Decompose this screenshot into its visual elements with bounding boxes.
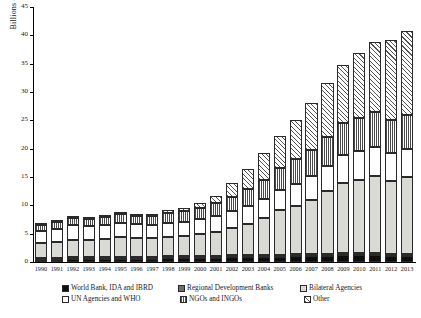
bar-segment <box>258 153 270 179</box>
x-tick-label: 2005 <box>272 265 288 272</box>
y-tick-label: 20 <box>0 145 28 152</box>
bar-column[interactable] <box>162 210 174 262</box>
y-tick-label: 25 <box>0 116 28 123</box>
bar-segment <box>369 112 381 147</box>
bar-segment <box>401 177 413 254</box>
bar-column[interactable] <box>353 53 365 262</box>
bar-column[interactable] <box>99 215 111 262</box>
bar-segment <box>130 259 142 262</box>
bar-segment <box>51 260 63 262</box>
x-tick-label: 2002 <box>224 265 240 272</box>
bar-segment <box>274 210 286 255</box>
legend-item-un-who[interactable]: UN Agencies and WHO <box>62 294 180 305</box>
bar-segment <box>242 224 254 256</box>
y-tick-label: 10 <box>0 201 28 208</box>
legend-item-world-bank[interactable]: World Bank, IDA and IBRD <box>62 283 178 294</box>
bar-segment <box>51 222 63 229</box>
bar-column[interactable] <box>51 220 63 262</box>
bar-segment <box>162 237 174 256</box>
bar-column[interactable] <box>274 136 286 262</box>
bar-column[interactable] <box>242 169 254 262</box>
x-tick-label: 2001 <box>208 265 224 272</box>
bar-segment <box>258 257 270 262</box>
bar-column[interactable] <box>35 223 47 262</box>
legend-label: World Bank, IDA and IBRD <box>71 283 153 294</box>
bar-segment <box>51 229 63 242</box>
bar-column[interactable] <box>83 217 95 262</box>
bar-segment <box>321 191 333 253</box>
bar-segment <box>353 180 365 253</box>
bar-segment <box>226 257 238 262</box>
bar-segment <box>99 259 111 262</box>
bar-column[interactable] <box>385 40 397 262</box>
bar-segment <box>210 203 222 216</box>
bar-segment <box>290 184 302 206</box>
bar-segment <box>242 257 254 262</box>
bar-column[interactable] <box>369 42 381 262</box>
legend-item-bilateral[interactable]: Bilateral Agencies <box>300 283 362 294</box>
bar-segment <box>146 225 158 239</box>
bar-segment <box>130 216 142 225</box>
legend-item-other[interactable]: Other <box>304 294 329 305</box>
bar-column[interactable] <box>178 208 190 262</box>
bar-column[interactable] <box>258 153 270 262</box>
bar-segment <box>401 256 413 262</box>
bar-segment <box>67 225 79 239</box>
solid-gray-swatch-icon <box>178 285 185 292</box>
bar-segment <box>194 219 206 234</box>
y-tick-label: 15 <box>0 173 28 180</box>
chart-legend: World Bank, IDA and IBRD Regional Develo… <box>62 283 362 305</box>
bar-column[interactable] <box>67 216 79 262</box>
x-tick-label: 1995 <box>113 265 129 272</box>
white-swatch-icon <box>62 296 69 303</box>
x-tick-label: 1996 <box>129 265 145 272</box>
bar-column[interactable] <box>146 214 158 262</box>
bar-segment <box>162 213 174 223</box>
bar-column[interactable] <box>401 31 413 262</box>
bar-column[interactable] <box>194 203 206 262</box>
bar-segment <box>162 258 174 262</box>
legend-item-regional-banks[interactable]: Regional Development Banks <box>178 283 300 294</box>
bar-segment <box>369 255 381 262</box>
bar-segment <box>321 137 333 166</box>
bar-segment <box>337 183 349 253</box>
x-tick-label: 1993 <box>81 265 97 272</box>
bar-segment <box>162 223 174 237</box>
bar-segment <box>35 231 47 243</box>
bar-column[interactable] <box>305 103 317 262</box>
bar-segment <box>210 216 222 232</box>
bar-segment <box>385 40 397 119</box>
bar-column[interactable] <box>130 214 142 262</box>
legend-row-bottom: UN Agencies and WHO NGOs and INGOs Other <box>62 294 362 305</box>
legend-item-ngos[interactable]: NGOs and INGOs <box>180 294 304 305</box>
bar-segment <box>114 223 126 238</box>
legend-label: Other <box>313 294 329 305</box>
bar-segment <box>337 65 349 123</box>
bar-column[interactable] <box>290 120 302 262</box>
bar-segment <box>114 214 126 223</box>
bar-segment <box>178 236 190 256</box>
bar-segment <box>305 200 317 254</box>
bar-segment <box>178 258 190 262</box>
bar-segment <box>258 218 270 255</box>
bar-series-group <box>33 7 415 262</box>
legend-label: Bilateral Agencies <box>309 283 362 294</box>
bar-segment <box>385 256 397 262</box>
x-tick-label: 1999 <box>176 265 192 272</box>
bar-column[interactable] <box>226 183 238 262</box>
bar-column[interactable] <box>337 65 349 262</box>
x-tick-label: 2011 <box>367 265 383 272</box>
bar-column[interactable] <box>321 83 333 262</box>
bar-segment <box>99 217 111 225</box>
bar-segment <box>35 243 47 258</box>
bar-column[interactable] <box>114 212 126 262</box>
bar-column[interactable] <box>210 196 222 262</box>
bar-segment <box>67 218 79 225</box>
bar-segment <box>83 219 95 226</box>
plot-area: Billions of 2014 US Dollars 051015202530… <box>33 7 415 262</box>
bar-segment <box>321 166 333 192</box>
diagonal-hatch-swatch-icon <box>304 296 311 303</box>
x-tick-label: 2006 <box>288 265 304 272</box>
legend-label: Regional Development Banks <box>187 283 273 294</box>
x-tick-label: 2009 <box>335 265 351 272</box>
